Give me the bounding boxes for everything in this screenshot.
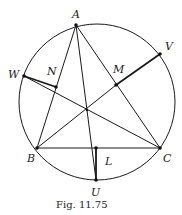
point-m	[114, 83, 118, 87]
point-c	[158, 146, 162, 150]
point-b	[35, 146, 39, 150]
label-c: C	[163, 152, 172, 165]
side-ac	[76, 25, 160, 148]
point-v	[158, 52, 162, 56]
point-u	[94, 178, 98, 182]
label-u: U	[91, 186, 101, 199]
label-v: V	[165, 40, 174, 53]
circumcircle	[19, 24, 175, 180]
point-w	[22, 74, 26, 78]
label-l: L	[104, 155, 112, 168]
label-b: B	[26, 152, 35, 165]
point-h	[86, 109, 88, 111]
point-n	[54, 85, 58, 89]
line-wc	[24, 76, 160, 148]
label-n: N	[46, 65, 57, 78]
geometry-figure: A B C V W U M N L Fig. 11.75	[0, 0, 182, 215]
figure-caption: Fig. 11.75	[56, 199, 108, 210]
label-w: W	[8, 68, 21, 81]
label-m: M	[112, 63, 125, 76]
point-l	[94, 146, 98, 150]
line-au	[76, 25, 96, 180]
point-a	[74, 23, 78, 27]
label-a: A	[71, 8, 80, 21]
line-bv	[37, 85, 116, 148]
